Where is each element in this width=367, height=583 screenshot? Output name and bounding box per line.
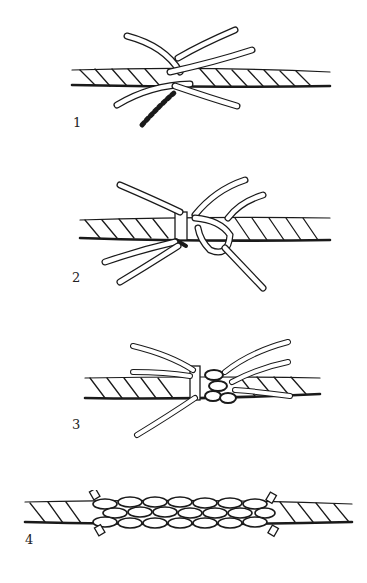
step-number-label: 1 (73, 115, 81, 130)
step-number-label: 3 (72, 417, 80, 432)
step-4-illustration (0, 490, 367, 583)
step-3-panel: 3 (0, 330, 367, 460)
step-1-illustration (0, 0, 367, 150)
step-3-illustration (0, 330, 367, 460)
step-1-panel: 1 (0, 0, 367, 150)
step-4-panel: 4 (0, 490, 367, 583)
step-number-label: 4 (25, 532, 33, 547)
step-2-panel: 2 (0, 160, 367, 310)
step-2-illustration (0, 160, 367, 310)
step-number-label: 2 (72, 270, 80, 285)
